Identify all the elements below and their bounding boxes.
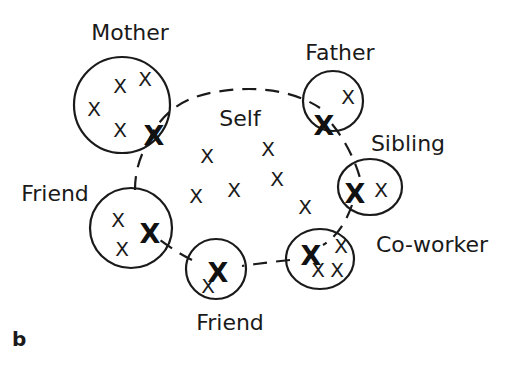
self-label: Self [219, 106, 262, 131]
mark-mother: X [138, 67, 152, 91]
mark-self: X [189, 184, 203, 208]
mark-coworker: X [330, 258, 344, 282]
mark-self: X [298, 195, 312, 219]
label-friend-left: Friend [21, 181, 89, 206]
label-coworker: Co-worker [376, 232, 489, 257]
mark-sibling: X [374, 178, 388, 202]
shared-mark-friend-left: X [140, 218, 161, 249]
shared-mark-father: X [314, 110, 335, 141]
mark-mother: X [113, 74, 127, 98]
panel-label: b [12, 327, 26, 351]
label-mother: Mother [91, 20, 170, 45]
label-father: Father [305, 40, 375, 65]
mark-mother: X [113, 118, 127, 142]
mark-coworker: X [334, 234, 348, 258]
mark-friend-left: X [115, 237, 129, 261]
label-friend-bottom: Friend [196, 310, 264, 335]
label-sibling: Sibling [371, 131, 445, 156]
mark-self: X [200, 144, 214, 168]
mark-father: X [341, 85, 355, 109]
mark-self: X [227, 178, 241, 202]
mark-self: X [261, 137, 275, 161]
shared-mark-mother: X [144, 120, 165, 151]
mark-friend-left: X [111, 208, 125, 232]
shared-mark-friend-bottom: X [208, 257, 229, 288]
shared-mark-sibling: X [345, 178, 366, 209]
mark-self: X [270, 167, 284, 191]
social-network-diagram: MotherXXXXXFatherXXSiblingXXCo-workerXXX… [0, 0, 517, 368]
shared-mark-coworker: X [301, 240, 322, 271]
mark-mother: X [87, 97, 101, 121]
